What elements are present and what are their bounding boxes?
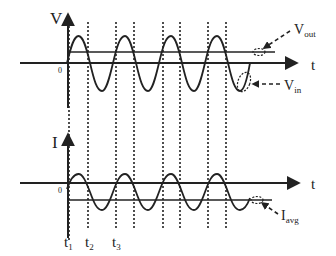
top-t-axis-label: t bbox=[311, 57, 316, 73]
bottom-current-plot: I t 0 Iavg bbox=[20, 133, 316, 238]
vout-label: Vout bbox=[294, 22, 316, 39]
bottom-t-axis-label: t bbox=[311, 176, 316, 192]
top-origin-label: 0 bbox=[58, 66, 62, 75]
t2-label: t2 bbox=[85, 234, 94, 252]
vout-label-main: V bbox=[294, 22, 304, 37]
iavg-pointer-arrow bbox=[262, 203, 278, 214]
v-axis-label: V bbox=[50, 9, 63, 28]
time-marker-labels: t1 t2 t3 bbox=[64, 234, 121, 252]
dotted-time-lines bbox=[69, 22, 226, 240]
t1-sub: 1 bbox=[68, 242, 73, 252]
vout-pointer-arrow bbox=[264, 31, 290, 48]
t2-sub: 2 bbox=[89, 242, 94, 252]
top-voltage-plot: V t 0 Vout Vin bbox=[20, 9, 316, 108]
waveform-diagram: V t 0 Vout Vin I t 0 Iavg t1 bbox=[0, 0, 336, 256]
vin-label-sub: in bbox=[294, 85, 302, 95]
current-sine-curve bbox=[67, 174, 250, 210]
t3-sub: 3 bbox=[116, 242, 121, 252]
iavg-label: Iavg bbox=[281, 208, 299, 225]
i-axis-label: I bbox=[52, 133, 58, 152]
vout-label-sub: out bbox=[304, 29, 316, 39]
iavg-label-sub: avg bbox=[286, 215, 299, 225]
vin-label-main: V bbox=[284, 78, 294, 93]
bottom-origin-label: 0 bbox=[58, 186, 62, 195]
t3-label: t3 bbox=[112, 234, 121, 252]
vin-label: Vin bbox=[284, 78, 302, 95]
